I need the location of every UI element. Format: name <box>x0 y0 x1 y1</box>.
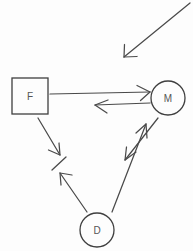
edge-f-to-junction[interactable] <box>38 118 60 155</box>
edge-m-to-f[interactable] <box>95 100 150 113</box>
edge-m-to-junction[interactable] <box>125 118 158 160</box>
edge-m-to-f-line <box>95 103 150 105</box>
edge-m-to-f-arrowhead <box>95 100 108 113</box>
node-d-label: D <box>93 225 100 236</box>
node-d[interactable]: D <box>80 213 114 247</box>
node-f-label: F <box>27 91 33 102</box>
edge-d-to-m[interactable] <box>112 124 147 212</box>
edge-d-to-junction[interactable] <box>60 173 87 212</box>
edge-m-to-junction-line <box>125 118 158 160</box>
edge-f-to-m[interactable] <box>50 86 150 101</box>
edge-f-to-junction-line <box>38 118 60 155</box>
junction-tick-marker <box>52 157 66 170</box>
edge-external-to-m-line <box>124 3 190 57</box>
node-f[interactable]: F <box>12 78 48 114</box>
edge-f-to-m-arrowhead <box>137 86 150 101</box>
node-m-label: M <box>164 93 172 104</box>
edge-f-to-m-line <box>50 92 150 94</box>
edge-d-to-m-line <box>112 124 146 212</box>
edge-d-to-junction-line <box>60 173 87 212</box>
edge-external-to-m[interactable] <box>124 3 190 57</box>
diagram-canvas: F M D <box>0 0 193 251</box>
node-m[interactable]: M <box>151 81 185 115</box>
node-link-diagram: F M D <box>0 0 193 251</box>
